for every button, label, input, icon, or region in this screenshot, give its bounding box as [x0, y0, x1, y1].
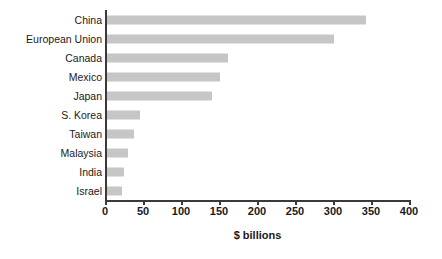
- bar-row: Japan: [0, 86, 442, 105]
- x-axis-title: $ billions: [105, 229, 410, 241]
- category-label: Japan: [73, 91, 102, 102]
- x-tick-label: 250: [286, 206, 304, 217]
- category-label: Canada: [65, 52, 102, 63]
- plot-area: ChinaEuropean UnionCanadaMexicoJapanS. K…: [0, 0, 442, 259]
- bar-row: Canada: [0, 48, 442, 67]
- bar: [107, 91, 212, 100]
- bar: [107, 15, 366, 24]
- bar: [107, 53, 228, 62]
- bar: [107, 130, 134, 139]
- category-label: Taiwan: [69, 129, 102, 140]
- category-label: Malaysia: [61, 148, 102, 159]
- bar: [107, 187, 122, 196]
- bar-row: Taiwan: [0, 125, 442, 144]
- x-tick-label: 350: [362, 206, 380, 217]
- bar-row: Mexico: [0, 67, 442, 86]
- category-label: Israel: [76, 186, 102, 197]
- x-tick-label: 300: [324, 206, 342, 217]
- x-tick-label: 0: [102, 206, 108, 217]
- x-tick-label: 150: [210, 206, 228, 217]
- bar-row: Malaysia: [0, 144, 442, 163]
- x-tick-label: 50: [137, 206, 149, 217]
- x-tick-label: 400: [400, 206, 418, 217]
- category-label: S. Korea: [61, 110, 102, 121]
- category-label: China: [75, 14, 102, 25]
- bar-row: India: [0, 163, 442, 182]
- x-tick-label: 100: [172, 206, 190, 217]
- bar-chart-figure: ChinaEuropean UnionCanadaMexicoJapanS. K…: [0, 0, 442, 259]
- bar: [107, 168, 124, 177]
- bar-row: S. Korea: [0, 105, 442, 124]
- category-label: European Union: [26, 33, 102, 44]
- x-tick-label: 200: [248, 206, 266, 217]
- bar: [107, 111, 140, 120]
- bar-rows: ChinaEuropean UnionCanadaMexicoJapanS. K…: [0, 10, 442, 201]
- bar: [107, 34, 334, 43]
- category-label: Mexico: [69, 72, 102, 83]
- bar: [107, 149, 128, 158]
- bar-row: Israel: [0, 182, 442, 201]
- bar-row: European Union: [0, 29, 442, 48]
- bar: [107, 72, 220, 81]
- bar-row: China: [0, 10, 442, 29]
- x-axis-ticks: 050100150200250300350400: [0, 200, 442, 230]
- category-label: India: [79, 167, 102, 178]
